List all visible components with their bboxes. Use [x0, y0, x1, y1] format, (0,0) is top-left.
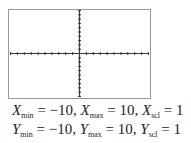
graph-screen — [0, 0, 191, 100]
y-window-settings: Ymin = −10, Ymax = 10, Yscl = 1 — [12, 122, 181, 139]
y-axis-ticks — [78, 11, 81, 97]
x-window-settings: Xmin = −10, Xmax = 10, Xscl = 1 — [12, 103, 184, 120]
